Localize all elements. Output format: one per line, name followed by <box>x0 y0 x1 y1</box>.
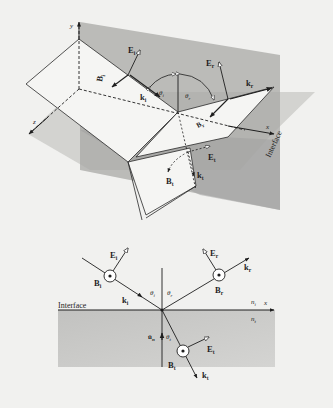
bottom-panel-2d: Interface x ni nt ûn Ei Bi ki θi Er Br k… <box>58 248 275 381</box>
n-i-label: ni <box>251 298 257 307</box>
theta-i-label-2d: θi <box>150 289 155 298</box>
B-r-label-2d: Br <box>215 285 224 296</box>
x-axis-label-2d: x <box>263 299 268 307</box>
k-i-label-2d: ki <box>122 295 129 306</box>
z-axis-label: z <box>32 118 36 126</box>
B-i-label-2d: Bi <box>94 278 102 289</box>
interface-label-2d: Interface <box>58 301 87 310</box>
E-r-label-2d: Er <box>210 248 219 259</box>
k-t-label-2d: kt <box>202 370 209 381</box>
reflected-ray <box>162 258 249 310</box>
y-axis-label: y <box>69 22 74 30</box>
theta-r-label-2d: θr <box>167 289 172 298</box>
k-r-label-2d: kr <box>244 262 252 273</box>
E-i-label-2d: Ei <box>110 250 118 261</box>
top-panel-3d: y z x Interface θi θr Ei Bi ki Er kr Br <box>26 22 315 220</box>
reflection-refraction-diagram: y z x Interface θi θr Ei Bi ki Er kr Br <box>0 0 333 408</box>
